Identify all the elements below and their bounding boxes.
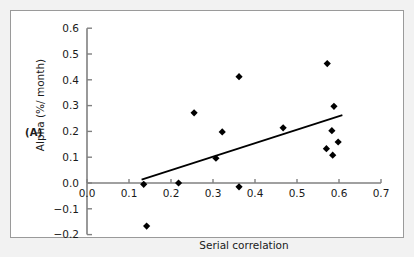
- x-tick-label: 0.3: [205, 187, 222, 199]
- x-tick-label: 0.7: [373, 187, 390, 199]
- data-points: [140, 60, 342, 230]
- data-point-marker: [323, 145, 330, 152]
- y-axis: 0.60.50.40.30.20.10.0−0.1−0.2: [54, 22, 93, 239]
- y-tick-label: −0.2: [54, 228, 80, 239]
- data-point-marker: [324, 60, 331, 67]
- x-axis-label: Serial correlation: [97, 239, 391, 251]
- y-tick-label: 0.5: [62, 48, 79, 60]
- data-point-marker: [219, 128, 226, 135]
- data-point-marker: [235, 183, 242, 190]
- y-tick-label: 0.3: [62, 99, 79, 111]
- data-point-marker: [140, 181, 147, 188]
- x-tick-label: 0.1: [121, 187, 138, 199]
- data-point-marker: [143, 222, 150, 229]
- data-point-marker: [235, 73, 242, 80]
- y-tick-label: 0.6: [62, 22, 79, 34]
- data-point-marker: [280, 124, 287, 131]
- data-point-marker: [191, 109, 198, 116]
- x-axis: 0.00.10.20.30.40.50.60.7: [79, 179, 390, 199]
- x-tick-label: 0.5: [289, 187, 306, 199]
- data-point-marker: [328, 127, 335, 134]
- data-point-marker: [330, 103, 337, 110]
- data-point-marker: [335, 138, 342, 145]
- figure-frame: (A) Alpha (%/ month) Serial correlation …: [10, 10, 404, 238]
- data-point-marker: [175, 179, 182, 186]
- x-tick-label: 0.0: [79, 187, 96, 199]
- x-tick-label: 0.6: [331, 187, 348, 199]
- scatter-plot: 0.60.50.40.30.20.10.0−0.1−0.2 0.00.10.20…: [11, 11, 405, 239]
- y-tick-label: −0.1: [54, 203, 80, 215]
- y-tick-label: 0.0: [62, 177, 79, 189]
- x-tick-label: 0.4: [247, 187, 264, 199]
- trendline: [142, 115, 343, 179]
- y-tick-label: 0.4: [62, 74, 79, 86]
- y-tick-label: 0.1: [62, 151, 79, 163]
- data-point-marker: [329, 152, 336, 159]
- x-tick-label: 0.2: [163, 187, 180, 199]
- y-tick-label: 0.2: [62, 125, 79, 137]
- figure-page: (A) Alpha (%/ month) Serial correlation …: [0, 0, 414, 257]
- trendline-segment: [142, 115, 343, 179]
